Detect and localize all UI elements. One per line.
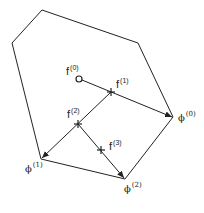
- label-phi2: ϕ(2): [124, 184, 142, 194]
- label-f2: f(2): [67, 109, 80, 120]
- label-phi1: ϕ(1): [25, 164, 43, 174]
- phi0-superscript: (0): [186, 110, 196, 118]
- projection-diagram: [0, 0, 204, 213]
- label-f0: f(0): [66, 66, 79, 77]
- feasible-region-polygon: [12, 10, 173, 179]
- phi2-superscript: (2): [132, 181, 142, 189]
- label-f1: f(1): [116, 79, 129, 90]
- phi2-symbol: ϕ: [124, 183, 131, 194]
- f0-symbol: f: [66, 65, 69, 77]
- f1-superscript: (1): [120, 77, 129, 84]
- phi0-symbol: ϕ: [178, 112, 185, 123]
- f3-symbol: f: [109, 140, 112, 152]
- phi1-superscript: (1): [33, 161, 43, 169]
- label-phi0: ϕ(0): [178, 113, 196, 123]
- label-f3: f(3): [109, 141, 122, 152]
- f2-superscript: (2): [71, 107, 80, 114]
- phi1-symbol: ϕ: [25, 163, 32, 174]
- f3-superscript: (3): [113, 139, 122, 146]
- f0-superscript: (0): [70, 64, 79, 71]
- f2-symbol: f: [67, 108, 70, 120]
- f1-symbol: f: [116, 78, 119, 90]
